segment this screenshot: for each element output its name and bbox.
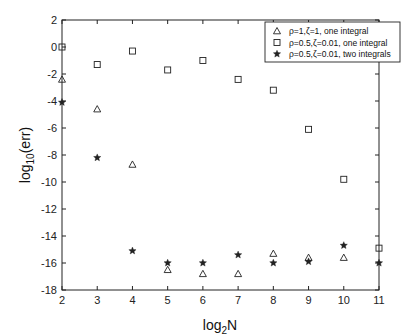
x-tick-label: 8 (270, 294, 276, 306)
y-tick-label: -16 (41, 257, 57, 269)
y-tick-label: -6 (47, 122, 57, 134)
square-marker (235, 76, 241, 82)
triangle-marker (129, 161, 136, 167)
x-axis-label: log2N (203, 317, 237, 336)
square-marker (94, 62, 100, 68)
legend: ρ=1,ζ=1, one integralρ=0.5,ζ=0.01, one i… (265, 22, 400, 62)
square-marker (129, 48, 135, 54)
y-tick-label: -14 (41, 230, 57, 242)
y-tick-label: -12 (41, 203, 57, 215)
square-marker (270, 87, 276, 93)
star-marker (235, 251, 242, 258)
x-tick-label: 9 (305, 294, 311, 306)
triangle-marker (270, 250, 277, 256)
x-tick-label: 10 (338, 294, 350, 306)
star-marker (340, 242, 347, 249)
y-tick-label: -2 (47, 68, 57, 80)
y-axis-label: log10(err) (17, 127, 36, 183)
y-tick-label: -10 (41, 176, 57, 188)
star-marker (199, 259, 206, 266)
triangle-marker (164, 266, 171, 272)
square-marker (306, 126, 312, 132)
y-tick-label: 2 (51, 14, 57, 26)
legend-entry: ρ=0.5,ζ=0.01, two integrals (289, 49, 391, 59)
triangle-marker (340, 254, 347, 260)
y-tick-label: -8 (47, 149, 57, 161)
legend-entry: ρ=1,ζ=1, one integral (289, 26, 369, 36)
star-marker (270, 259, 277, 266)
star-marker (94, 154, 101, 161)
x-tick-label: 5 (165, 294, 171, 306)
triangle-marker (199, 270, 206, 276)
x-tick-label: 6 (200, 294, 206, 306)
star-marker (129, 247, 136, 254)
y-tick-label: 0 (51, 41, 57, 53)
x-tick-label: 3 (94, 294, 100, 306)
square-marker (341, 176, 347, 182)
square-marker (200, 58, 206, 64)
x-tick-label: 11 (373, 294, 384, 306)
star-marker (164, 259, 171, 266)
x-tick-label: 7 (235, 294, 241, 306)
data-points (58, 44, 382, 277)
y-tick-label: -4 (47, 95, 57, 107)
legend-entry: ρ=0.5,ζ=0.01, one integral (289, 38, 387, 48)
x-tick-label: 2 (59, 294, 65, 306)
y-tick-label: -18 (41, 284, 57, 296)
x-tick-label: 4 (129, 294, 135, 306)
triangle-marker (235, 270, 242, 276)
triangle-marker (94, 106, 101, 112)
scatter-chart: 23456789101120-2-4-6-8-10-12-14-16-18 ρ=… (0, 0, 402, 336)
square-marker (165, 67, 171, 73)
